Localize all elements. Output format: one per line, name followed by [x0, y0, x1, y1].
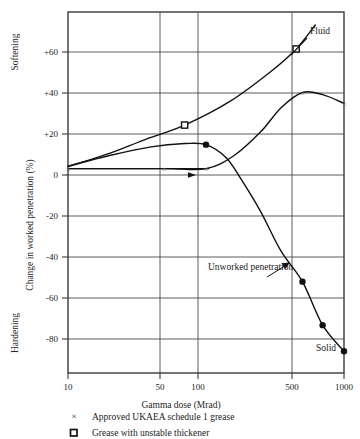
ytick-label-40: +40	[44, 88, 59, 98]
open-square-marker-icon	[182, 122, 188, 128]
cross-marker-icon: ×	[71, 411, 76, 421]
y-axis-bottom-label: Hardening	[10, 313, 20, 353]
filled-circle-marker-icon	[341, 348, 347, 354]
xtick-label-100: 100	[191, 382, 205, 392]
legend-item-square[interactable]: Grease with unstable thickener	[71, 428, 211, 438]
ytick-label-m80: -80	[46, 334, 58, 344]
ytick-label-0: 0	[54, 170, 59, 180]
chart-figure: +60 +40 +20 0 -20 -40 -60 -80 10 50 100 …	[0, 0, 360, 439]
filled-circle-marker-icon	[203, 141, 209, 147]
cross-marker-icon: ×	[65, 164, 70, 174]
cross-marker-icon: ×	[300, 88, 305, 98]
annotation-unworked-line1: Unworked penetration	[208, 262, 293, 272]
ytick-label-m20: -20	[46, 211, 58, 221]
xtick-label-1000: 1000	[335, 382, 354, 392]
xtick-label-500: 500	[285, 382, 299, 392]
cross-marker-icon: ×	[203, 164, 208, 174]
legend-item-cross[interactable]: × Approved UKAEA schedule 1 grease	[71, 411, 234, 422]
xtick-label-50: 50	[156, 382, 166, 392]
x-axis-title: Gamma dose (Mrad)	[141, 400, 220, 411]
xtick-label-10: 10	[64, 382, 74, 392]
y-axis-top-label: Softening	[10, 33, 20, 70]
annotation-fluid: Fluid	[310, 26, 330, 36]
filled-circle-marker-icon	[319, 322, 325, 328]
ytick-label-20: +20	[44, 129, 59, 139]
y-axis-title: Change in worked penetration (%)	[25, 159, 36, 290]
annotation-solid: Solid	[316, 343, 336, 353]
ytick-label-m40: -40	[46, 252, 58, 262]
cross-marker-icon: ×	[162, 164, 167, 174]
cross-marker-icon: ×	[341, 99, 346, 109]
legend-label-unstable: Grease with unstable thickener	[92, 428, 210, 438]
filled-circle-marker-icon	[299, 278, 305, 284]
ytick-label-m60: -60	[46, 293, 58, 303]
open-square-marker-icon	[71, 430, 78, 437]
legend-label-ukaea: Approved UKAEA schedule 1 grease	[92, 412, 234, 422]
ytick-label-60: +60	[44, 47, 59, 57]
chart-svg: +60 +40 +20 0 -20 -40 -60 -80 10 50 100 …	[0, 0, 360, 439]
